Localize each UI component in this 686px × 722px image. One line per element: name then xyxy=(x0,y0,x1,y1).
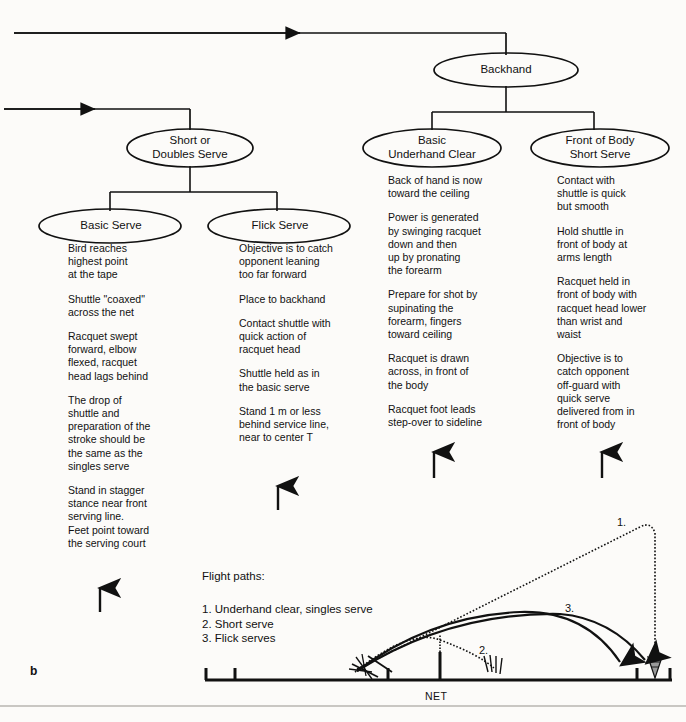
flight-path-3a-flick-serve xyxy=(357,612,620,671)
note-item: Racquet foot leads step-over to sideline xyxy=(388,403,524,429)
flight-paths-legend: 1. Underhand clear, singles serve 2. Sho… xyxy=(202,602,373,646)
note-item: The drop of shuttle and preparation of t… xyxy=(68,394,190,473)
note-item: Bird reaches highest point at the tape xyxy=(68,242,190,282)
node-backhand[interactable] xyxy=(434,53,578,87)
node-front-of-body-short-serve[interactable] xyxy=(531,129,669,167)
note-item: Prepare for shot by supinating the forea… xyxy=(388,288,524,341)
note-item: Racquet is drawn across, in front of the… xyxy=(388,352,524,392)
note-item: Contact shuttle with quick action of rac… xyxy=(239,317,373,357)
note-item: Contact with shuttle is quick but smooth xyxy=(557,174,681,214)
incoming-arrow-lower xyxy=(4,109,190,130)
court-line-markers xyxy=(206,668,670,680)
note-item: Power is generated by swinging racquet d… xyxy=(388,211,524,277)
shuttle-marker-short-serve xyxy=(484,655,502,674)
net-label: NET xyxy=(425,690,447,702)
path-marker-1: 1. xyxy=(617,516,626,528)
node-basic-serve[interactable] xyxy=(39,209,181,243)
incoming-arrow-top xyxy=(14,33,506,55)
note-item: Racquet held in front of body with racqu… xyxy=(557,275,681,341)
path-marker-3: 3. xyxy=(565,602,574,614)
node-flick-serve[interactable] xyxy=(208,209,350,243)
note-item: Racquet swept forward, elbow flexed, rac… xyxy=(68,330,190,383)
note-item: Hold shuttle in front of body at arms le… xyxy=(557,225,681,265)
legend-item-2: 2. Short serve xyxy=(202,617,373,632)
note-item: Place to backhand xyxy=(239,293,373,306)
node-short-or-doubles-serve[interactable] xyxy=(127,129,253,167)
figure-letter: b xyxy=(30,664,37,678)
column-basic-underhand-clear-notes: Back of hand is now toward the ceiling P… xyxy=(388,174,524,429)
path-marker-2: 2. xyxy=(479,644,488,656)
racquet-icon xyxy=(349,654,392,679)
note-item: Back of hand is now toward the ceiling xyxy=(388,174,524,200)
note-item: Objective is to catch opponent off-guard… xyxy=(557,352,681,431)
shuttle-marker-path-1 xyxy=(648,657,662,678)
node-basic-underhand-clear[interactable] xyxy=(363,129,501,167)
column-basic-serve-notes: Bird reaches highest point at the tape S… xyxy=(68,242,190,550)
column-front-of-body-short-serve-notes: Contact with shuttle is quick but smooth… xyxy=(557,174,681,431)
note-item: Objective is to catch opponent leaning t… xyxy=(239,242,373,282)
column-flick-serve-notes: Objective is to catch opponent leaning t… xyxy=(239,242,373,444)
flight-paths-title: Flight paths: xyxy=(202,570,265,582)
legend-item-3: 3. Flick serves xyxy=(202,631,373,646)
note-item: Shuttle held as in the basic serve xyxy=(239,367,373,393)
legend-item-1: 1. Underhand clear, singles serve xyxy=(202,602,373,617)
note-item: Shuttle "coaxed" across the net xyxy=(68,293,190,319)
flight-path-2-short-serve xyxy=(355,637,494,672)
note-item: Stand in stagger stance near front servi… xyxy=(68,484,190,550)
note-item: Stand 1 m or less behind service line, n… xyxy=(239,405,373,445)
